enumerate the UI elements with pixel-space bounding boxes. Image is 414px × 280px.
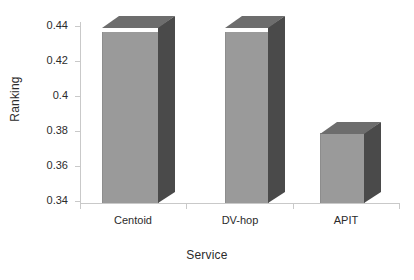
x-tick-label-apit: APIT: [291, 214, 401, 226]
x-tick-mark: [186, 203, 187, 209]
bar-front-face: [320, 133, 365, 203]
y-tick-label: 0.36: [8, 160, 68, 171]
bar-apit: [320, 122, 364, 203]
x-axis-line: [80, 203, 400, 204]
y-tick-mark: [75, 61, 80, 62]
bar-front-face: [225, 32, 269, 203]
y-tick-mark: [75, 96, 80, 97]
bar-front-face: [102, 32, 159, 203]
x-tick-mark: [293, 203, 294, 209]
bar-side-face: [268, 16, 285, 203]
bar-centoid: [102, 16, 158, 203]
x-tick-mark: [80, 203, 81, 209]
y-tick-label: 0.4: [8, 90, 68, 101]
y-axis-line: [80, 22, 81, 204]
bar-side-face: [158, 16, 175, 203]
x-tick-mark: [399, 203, 400, 209]
y-tick-mark: [75, 201, 80, 202]
x-tick-label-centoid: Centoid: [78, 214, 188, 226]
y-tick-label: 0.44: [8, 20, 68, 31]
y-tick-mark: [75, 131, 80, 132]
bar-dv-hop: [225, 16, 268, 203]
bar-side-face: [364, 122, 381, 203]
y-tick-mark: [75, 26, 80, 27]
bar-chart: Ranking 0.44 0.42 0.4 0.38 0.36 0.34 Cen…: [0, 0, 414, 280]
x-tick-label-dv-hop: DV-hop: [185, 214, 295, 226]
y-tick-label: 0.34: [8, 195, 68, 206]
y-tick-label: 0.42: [8, 55, 68, 66]
x-axis-title: Service: [0, 248, 414, 262]
y-tick-mark: [75, 166, 80, 167]
y-tick-label: 0.38: [8, 125, 68, 136]
